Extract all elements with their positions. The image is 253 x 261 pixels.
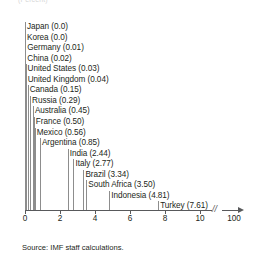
axis-break-icon: // — [212, 205, 217, 214]
data-point-label: India (2.44) — [70, 149, 111, 158]
figure-subtitle: (Percent) — [18, 0, 48, 3]
value-stem — [86, 180, 87, 210]
value-stem — [73, 159, 74, 210]
data-point-label: Turkey (7.61) — [160, 201, 208, 210]
figure-source-note: Source: IMF staff calculations. — [22, 243, 124, 252]
value-stem — [26, 75, 27, 210]
value-stem — [109, 191, 110, 210]
figure-container: (Percent) Japan (0.0)Korea (0.0)Germany … — [0, 0, 253, 261]
data-point-label: Brazil (3.34) — [85, 170, 129, 179]
x-axis-tick-label: 4 — [80, 214, 110, 223]
data-point-label: Italy (2.77) — [75, 159, 113, 168]
value-stem — [30, 96, 31, 210]
axis-arrow-icon — [238, 207, 244, 213]
x-axis-tick-label: 10 — [185, 214, 215, 223]
x-axis-tick-label: 0 — [10, 214, 40, 223]
value-stem — [40, 138, 41, 210]
x-axis-line — [25, 210, 212, 211]
data-point-label: Russia (0.29) — [32, 96, 80, 105]
data-point-label: China (0.02) — [27, 54, 71, 63]
data-point-label: Argentina (0.85) — [42, 138, 100, 147]
value-stem — [35, 128, 36, 211]
value-stem — [68, 149, 69, 210]
x-axis-continuation — [222, 210, 238, 211]
data-point-label: Indonesia (4.81) — [111, 191, 169, 200]
data-point-label: Australia (0.45) — [35, 106, 90, 115]
value-stem — [158, 201, 159, 210]
value-stem — [28, 85, 29, 210]
x-axis-tick-label: 2 — [45, 214, 75, 223]
value-stem — [83, 170, 84, 210]
data-point-label: United Kingdom (0.04) — [28, 75, 109, 84]
x-axis-tick-label: 8 — [150, 214, 180, 223]
data-point-label: United States (0.03) — [28, 64, 100, 73]
data-point-label: Germany (0.01) — [27, 43, 84, 52]
x-axis-tick-label: 6 — [115, 214, 145, 223]
data-point-label: Canada (0.15) — [30, 85, 82, 94]
data-point-label: South Africa (3.50) — [88, 180, 155, 189]
data-point-label: France (0.50) — [36, 117, 85, 126]
x-axis-tick-label-max: 100 — [222, 214, 246, 223]
data-point-label: Japan (0.0) — [27, 22, 68, 31]
data-point-label: Korea (0.0) — [27, 33, 67, 42]
chart-plot-area: Japan (0.0)Korea (0.0)Germany (0.01)Chin… — [0, 14, 253, 226]
data-point-label: Mexico (0.56) — [37, 128, 86, 137]
